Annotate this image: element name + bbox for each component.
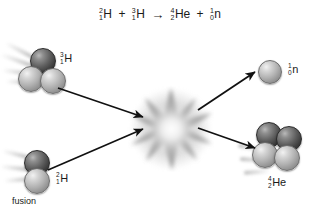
arrow-burst-to-helium xyxy=(198,128,255,148)
fusion-reaction-diagram: 2 1 H + 3 1 H → 4 2 He + 1 0 n xyxy=(0,0,320,209)
arrow-deuterium-to-burst xyxy=(48,129,143,170)
arrow-burst-to-neutron xyxy=(198,72,255,110)
reaction-arrows xyxy=(0,0,320,209)
figure-caption: fusion xyxy=(12,196,36,206)
arrow-tritium-to-burst xyxy=(58,88,143,117)
